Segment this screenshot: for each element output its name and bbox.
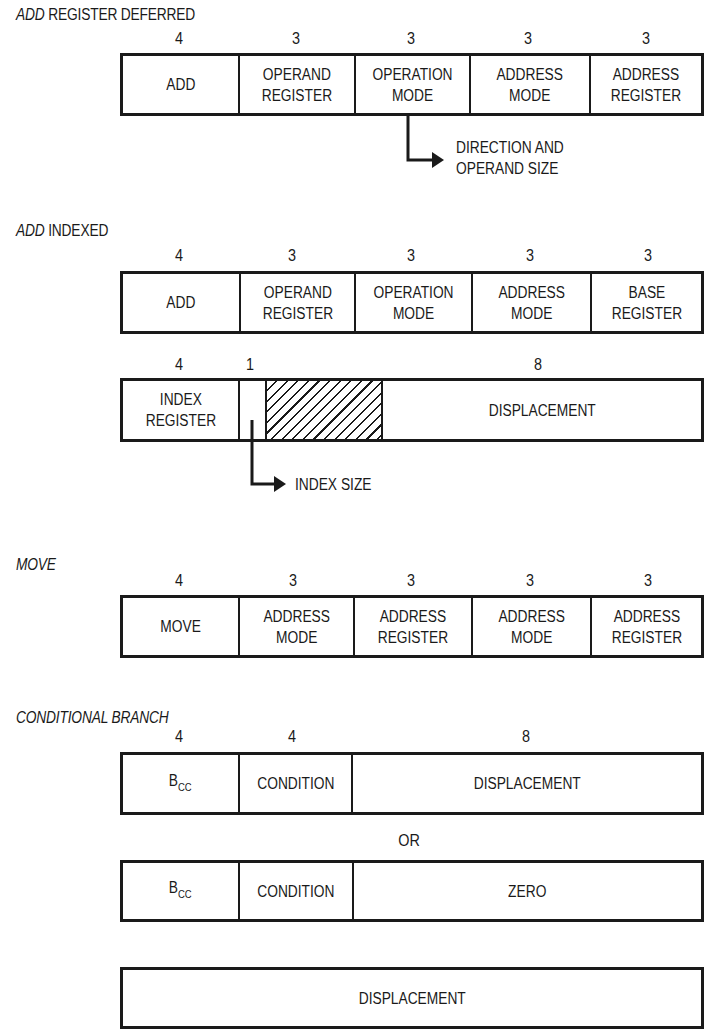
field-address-register: ADDRESS REGISTER (591, 56, 701, 113)
field-label: CONDITION (257, 881, 334, 902)
bit-width-label: 8 (508, 728, 544, 746)
field-displacement: DISPLACEMENT (123, 970, 701, 1026)
extension-word-branch-displacement: DISPLACEMENT (120, 967, 704, 1029)
field-label: DISPLACEMENT (358, 988, 465, 1009)
bit-width-label: 4 (274, 728, 310, 746)
bit-width-label: 4 (161, 728, 197, 746)
field-condition: CONDITION (240, 755, 353, 812)
annotation-index-size: INDEX SIZE (295, 474, 371, 495)
field-label: CONDITION (257, 773, 334, 794)
bit-width-label: 3 (630, 247, 666, 265)
field-label: BASE REGISTER (611, 282, 681, 324)
title-mode: INDEXED (45, 222, 109, 239)
instruction-word-add-register-deferred: ADD OPERAND REGISTER OPERATION MODE ADDR… (120, 53, 704, 116)
bit-width-label: 4 (161, 247, 197, 265)
title-mnemonic: ADD (16, 6, 45, 23)
bit-width-label: 3 (512, 572, 548, 590)
field-dest-address-mode: ADDRESS MODE (240, 598, 355, 655)
bit-width-label: 3 (510, 30, 546, 48)
field-address-mode: ADDRESS MODE (473, 274, 592, 331)
field-label: ADDRESS REGISTER (611, 606, 681, 648)
field-label: MOVE (160, 616, 201, 637)
bcc-main: B (169, 879, 178, 896)
field-src-address-register: ADDRESS REGISTER (592, 598, 701, 655)
field-index-register: INDEX REGISTER (123, 381, 240, 439)
field-label: INDEX REGISTER (145, 389, 215, 431)
section-title-add-indexed: ADD INDEXED (16, 222, 108, 240)
field-operation-mode: OPERATION MODE (356, 56, 471, 113)
bit-width-label: 3 (628, 30, 664, 48)
bcc-main: B (169, 772, 178, 789)
field-label: OPERATION MODE (373, 282, 453, 324)
bit-width-label: 3 (275, 572, 311, 590)
bit-width-label: 4 (161, 30, 197, 48)
field-label: ADDRESS MODE (498, 606, 565, 648)
field-label: ADDRESS REGISTER (611, 64, 681, 106)
instruction-word-branch-short: BCC CONDITION DISPLACEMENT (120, 752, 704, 815)
arrow-icon (400, 114, 450, 174)
field-label: ADD (166, 292, 195, 313)
annotation-direction-operand-size: DIRECTION AND OPERAND SIZE (456, 137, 564, 179)
bit-width-label: 3 (630, 572, 666, 590)
bit-width-label: 3 (393, 572, 429, 590)
field-operand-register: OPERAND REGISTER (241, 274, 356, 331)
field-label: BCC (169, 877, 192, 905)
field-label: OPERATION MODE (372, 64, 452, 106)
arrow-icon (244, 420, 294, 495)
bit-width-label: 3 (393, 30, 429, 48)
field-label: ADDRESS REGISTER (378, 606, 448, 648)
field-opcode: MOVE (123, 598, 240, 655)
bit-width-label: 1 (232, 356, 268, 374)
field-label: OPERAND REGISTER (262, 64, 332, 106)
field-dest-address-register: ADDRESS REGISTER (355, 598, 473, 655)
instruction-word-move: MOVE ADDRESS MODE ADDRESS REGISTER ADDRE… (120, 595, 704, 658)
field-label: OPERAND REGISTER (262, 282, 332, 324)
field-label: ADDRESS MODE (498, 282, 565, 324)
section-title-add-register-deferred: ADD REGISTER DEFERRED (16, 6, 195, 24)
bit-width-label: 8 (520, 356, 556, 374)
title-mnemonic: CONDITIONAL BRANCH (16, 709, 169, 726)
field-displacement: DISPLACEMENT (383, 381, 701, 439)
field-condition: CONDITION (240, 863, 354, 919)
field-opcode: ADD (123, 274, 241, 331)
title-mnemonic: MOVE (16, 556, 56, 573)
field-operand-register: OPERAND REGISTER (240, 56, 356, 113)
section-title-conditional-branch: CONDITIONAL BRANCH (16, 709, 169, 727)
field-bcc: BCC (123, 755, 240, 812)
field-label: ADDRESS MODE (263, 606, 330, 648)
field-displacement: DISPLACEMENT (353, 755, 701, 812)
title-mode: REGISTER DEFERRED (45, 6, 196, 23)
bit-width-label: 4 (161, 356, 197, 374)
field-bcc: BCC (123, 863, 240, 919)
title-mnemonic: ADD (16, 222, 45, 239)
field-label: ADDRESS MODE (497, 64, 564, 106)
bcc-subscript: CC (178, 888, 192, 900)
bit-width-label: 3 (512, 247, 548, 265)
field-label: ADD (166, 74, 195, 95)
field-zero: ZERO (354, 863, 701, 919)
bit-width-label: 3 (278, 30, 314, 48)
field-base-register: BASE REGISTER (592, 274, 701, 331)
field-label: DISPLACEMENT (473, 773, 580, 794)
section-title-move: MOVE (16, 556, 56, 574)
field-label: DISPLACEMENT (488, 400, 595, 421)
instruction-word-branch-long: BCC CONDITION ZERO (120, 860, 704, 922)
bit-width-label: 4 (161, 572, 197, 590)
bit-width-label: 3 (274, 247, 310, 265)
bit-width-label: 3 (393, 247, 429, 265)
field-src-address-mode: ADDRESS MODE (473, 598, 592, 655)
instruction-word-add-indexed: ADD OPERAND REGISTER OPERATION MODE ADDR… (120, 271, 704, 334)
field-label: ZERO (508, 881, 546, 902)
field-opcode: ADD (123, 56, 240, 113)
field-operation-mode: OPERATION MODE (356, 274, 473, 331)
field-address-mode: ADDRESS MODE (471, 56, 591, 113)
or-separator: OR (398, 832, 420, 850)
bcc-subscript: CC (178, 781, 192, 793)
extension-word-add-indexed: INDEX REGISTER DISPLACEMENT (120, 378, 704, 442)
field-label: BCC (169, 770, 192, 798)
